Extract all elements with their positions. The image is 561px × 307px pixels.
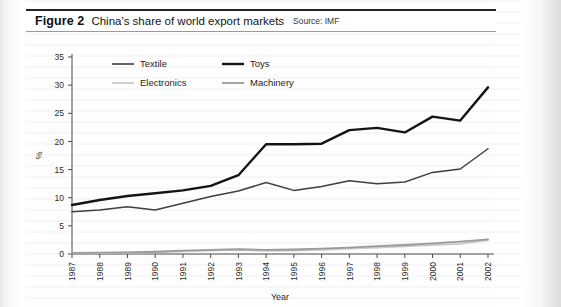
x-tick-label: 2000 <box>428 262 438 281</box>
y-tick-label: 10 <box>55 193 65 203</box>
figure-source: Source: IMF <box>293 16 339 26</box>
x-tick-label: 2002 <box>483 262 493 281</box>
legend-label-toys: Toys <box>250 58 270 69</box>
x-tick-label: 1987 <box>67 262 77 281</box>
figure-title: China's share of world export markets <box>91 15 284 27</box>
figure-header: Figure 2 China's share of world export m… <box>26 9 496 32</box>
x-tick-label: 1993 <box>234 262 244 281</box>
figure-number: Figure 2 <box>35 14 84 28</box>
legend-label-electronics: Electronics <box>140 77 187 88</box>
y-axis-label: % <box>34 151 44 159</box>
y-tick-label: 20 <box>55 137 65 147</box>
y-tick-label: 5 <box>59 221 64 231</box>
line-chart: 05101520253035%1987198819891990199119921… <box>26 40 496 302</box>
x-tick-label: 1998 <box>372 262 382 281</box>
x-tick-label: 1991 <box>178 262 188 281</box>
x-tick-label: 1997 <box>345 262 355 281</box>
x-tick-label: 2001 <box>455 262 465 281</box>
x-axis-label: Year <box>271 292 289 302</box>
x-tick-label: 1989 <box>123 262 133 281</box>
legend-label-machinery: Machinery <box>250 77 294 88</box>
chart-canvas: 05101520253035%1987198819891990199119921… <box>26 40 496 302</box>
series-line-textile <box>72 149 488 212</box>
legend-label-textile: Textile <box>140 58 167 69</box>
x-tick-label: 1988 <box>95 262 105 281</box>
series-line-electronics <box>72 240 488 253</box>
y-tick-label: 25 <box>55 108 65 118</box>
y-tick-label: 0 <box>59 249 64 259</box>
y-tick-label: 35 <box>55 52 65 62</box>
series-line-toys <box>72 87 488 205</box>
x-tick-label: 1992 <box>206 262 216 281</box>
y-tick-label: 15 <box>55 165 65 175</box>
x-tick-label: 1994 <box>261 262 271 281</box>
x-tick-label: 1995 <box>289 262 299 281</box>
x-tick-label: 1990 <box>150 262 160 281</box>
x-tick-label: 1996 <box>317 262 327 281</box>
x-tick-label: 1999 <box>400 262 410 281</box>
y-tick-label: 30 <box>55 80 65 90</box>
